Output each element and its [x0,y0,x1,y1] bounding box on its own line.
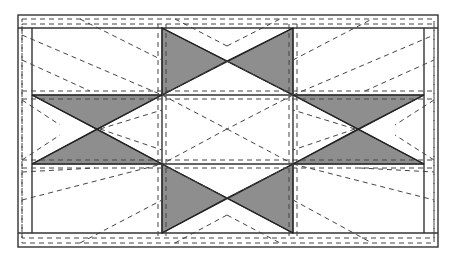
outer-border [18,15,438,247]
grid-lines [32,28,424,233]
outer-seam-allowance [22,19,434,243]
seam-allowance-lines [22,19,434,243]
quilt-diagram [0,0,452,263]
hourglass-diagonals [32,28,424,233]
